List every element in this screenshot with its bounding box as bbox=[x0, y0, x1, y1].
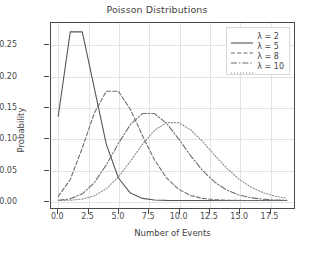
x-axis-tick-mark bbox=[270, 209, 271, 214]
chart-title: Poisson Distributions bbox=[0, 4, 314, 15]
legend-label: λ = 5 bbox=[257, 42, 279, 51]
y-axis-tick-mark bbox=[44, 76, 49, 77]
legend-item: λ = 5 bbox=[231, 41, 284, 51]
x-axis-tick-mark bbox=[88, 209, 89, 214]
y-axis-label: Probability bbox=[16, 75, 26, 185]
plot-area: λ = 2λ = 5λ = 8λ = 10 bbox=[50, 22, 295, 209]
chart-legend: λ = 2λ = 5λ = 8λ = 10 bbox=[226, 27, 290, 75]
x-axis-tick-mark bbox=[239, 209, 240, 214]
x-axis-tick-mark bbox=[57, 209, 58, 214]
y-axis-tick-mark bbox=[44, 170, 49, 171]
x-axis-tick-mark bbox=[148, 209, 149, 214]
series-line-lambda-8 bbox=[58, 114, 287, 201]
y-axis-tick-mark bbox=[44, 44, 49, 45]
y-axis-tick-label: 0.10 bbox=[0, 134, 17, 143]
y-axis-tick-mark bbox=[44, 138, 49, 139]
y-axis-tick-label: 0.25 bbox=[0, 40, 17, 49]
legend-item: λ = 2 bbox=[231, 31, 284, 41]
y-axis-tick-mark bbox=[44, 107, 49, 108]
x-axis-tick-mark bbox=[118, 209, 119, 214]
x-axis-tick-mark bbox=[209, 209, 210, 214]
y-axis-tick-label: 0.15 bbox=[0, 103, 17, 112]
series-line-lambda-10 bbox=[58, 123, 287, 201]
x-axis-label: Number of Events bbox=[50, 228, 295, 238]
legend-line-sample bbox=[231, 32, 253, 40]
poisson-distributions-figure: Poisson Distributions Probability Number… bbox=[0, 0, 314, 259]
legend-item: λ = 10 bbox=[231, 61, 284, 71]
y-axis-tick-label: 0.00 bbox=[0, 197, 17, 206]
legend-item: λ = 8 bbox=[231, 51, 284, 61]
y-axis-tick-mark bbox=[44, 201, 49, 202]
y-axis-tick-label: 0.05 bbox=[0, 165, 17, 174]
legend-label: λ = 10 bbox=[257, 62, 284, 71]
x-axis-tick-mark bbox=[179, 209, 180, 214]
legend-line-sample bbox=[231, 62, 253, 70]
y-axis-tick-label: 0.20 bbox=[0, 71, 17, 80]
legend-line-sample bbox=[231, 42, 253, 50]
legend-line-sample bbox=[231, 52, 253, 60]
legend-label: λ = 2 bbox=[257, 32, 279, 41]
legend-label: λ = 8 bbox=[257, 52, 279, 61]
